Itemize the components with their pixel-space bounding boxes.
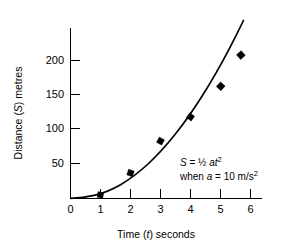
annotation-line-1: S = ½ at2 [180,155,222,168]
data-point-3 [157,137,165,145]
annotation-when: when [179,171,207,182]
annotation-value: = 10 m/s [212,171,253,182]
annotation-eq-1: = [187,157,198,168]
y-tick-label-150: 150 [46,88,64,100]
y-axis-title-tail: ) metres [12,67,24,106]
annotation-exponent-2: 2 [254,169,258,178]
x-tick-label-5: 5 [217,203,223,215]
y-axis-title-lead: Distance ( [12,112,24,160]
y-tick-label-50: 50 [52,157,64,169]
x-axis-title: Time (t) seconds [117,228,195,240]
x-tick-label-1: 1 [97,203,103,215]
x-tick-label-3: 3 [157,203,163,215]
x-tick-label-0: 0 [67,203,73,215]
x-axis-title-tail: ) seconds [149,228,195,240]
y-axis-title-symbol: S [12,105,24,112]
data-point-4 [186,113,194,121]
data-point-5 [216,82,225,91]
data-point-6 [237,51,246,60]
annotation-line-2: when a = 10 m/s2 [179,169,258,182]
annotation-half: ½ [198,157,209,168]
data-point-1 [97,192,103,198]
y-tick-label-200: 200 [46,54,64,66]
y-tick-label-100: 100 [46,122,64,134]
distance-time-chart: 200 150 100 50 0 1 2 3 4 5 6 Dis [0,0,291,251]
x-tick-label-6: 6 [247,203,253,215]
x-tick-label-4: 4 [187,203,193,215]
x-axis-title-lead: Time ( [117,228,147,240]
y-axis-title: Distance (S) metres [12,67,24,160]
figure-container: 200 150 100 50 0 1 2 3 4 5 6 Dis [0,0,291,251]
x-tick-label-2: 2 [127,203,133,215]
annotation-exponent-1: 2 [218,155,222,164]
